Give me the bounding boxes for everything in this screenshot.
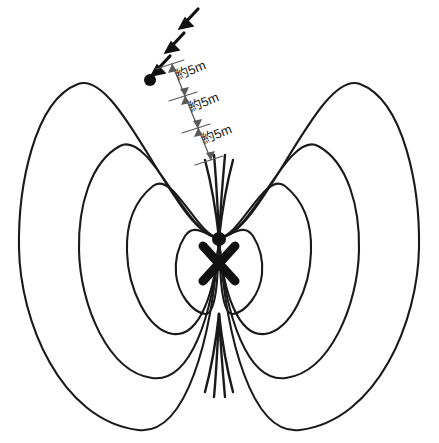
figure-container: 約5m 約5m 約5m bbox=[0, 0, 439, 443]
field-loop-left-middle bbox=[79, 144, 219, 378]
field-loop-right-inner bbox=[219, 184, 311, 335]
field-line-diagram: 約5m 約5m 約5m bbox=[0, 0, 439, 443]
field-loop-right-middle bbox=[219, 144, 359, 378]
field-loop-left-inner bbox=[127, 184, 219, 335]
incoming-arrow-1 bbox=[179, 9, 198, 29]
incoming-arrow-2 bbox=[165, 33, 184, 53]
field-loop-left-outer bbox=[19, 83, 219, 430]
dim-tick-3 bbox=[195, 156, 223, 165]
dimension-label-3: 約5m bbox=[200, 121, 234, 147]
dimension-label-1: 約5m bbox=[174, 57, 208, 83]
dimension-label-2: 約5m bbox=[187, 89, 221, 115]
field-loop-right-outer bbox=[219, 83, 419, 430]
source-point-dot bbox=[212, 232, 226, 246]
